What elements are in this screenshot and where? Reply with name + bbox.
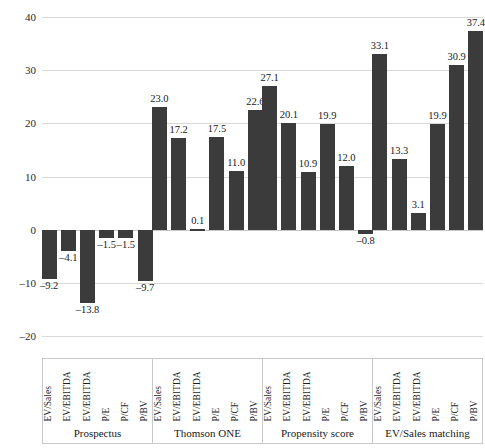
gridline--20: –20 [42, 336, 483, 337]
category-tick-label: P/BV [470, 400, 480, 421]
category-tick-labels: EV/SalesEV/EBITDAEV/EBITDAP/EP/CFP/BV [43, 359, 152, 421]
bar [61, 230, 76, 252]
bar [358, 230, 373, 234]
category-group: EV/SalesEV/EBITDAEV/EBITDAP/EP/CFP/BVPro… [263, 359, 373, 443]
category-tick-label: P/BV [140, 400, 150, 421]
category-tick-label: EV/EBITDA [413, 371, 423, 421]
category-tick-label: P/E [322, 407, 332, 421]
category-tick-label: P/CF [341, 401, 351, 421]
category-tick-label: P/BV [360, 400, 370, 421]
category-tick-label: P/CF [451, 401, 461, 421]
bar-value-label: 30.9 [447, 52, 465, 63]
bar-value-label: 19.9 [428, 111, 446, 122]
bar [209, 137, 224, 230]
category-tick-label: P/CF [231, 401, 241, 421]
bar [430, 124, 445, 230]
bar-value-label: 20.1 [280, 110, 298, 121]
bar [171, 138, 186, 229]
category-tick-label: EV/EBITDA [174, 371, 184, 421]
bar-value-label: 27.1 [260, 73, 278, 84]
bar-value-label: –1.5 [98, 240, 116, 251]
gridline--10: –10 [42, 283, 483, 284]
category-group: EV/SalesEV/EBITDAEV/EBITDAP/EP/CFP/BVPro… [43, 359, 153, 443]
bar [339, 166, 354, 230]
category-group-label: Prospectus [43, 428, 152, 439]
bar [152, 107, 167, 229]
bar [42, 230, 57, 279]
bar [229, 171, 244, 229]
category-tick-label: EV/Sales [264, 386, 274, 421]
bar [99, 230, 114, 238]
category-tick-label: EV/EBITDA [83, 371, 93, 421]
bar-value-label: 12.0 [337, 153, 355, 164]
y-axis-tick-label: –20 [20, 331, 37, 342]
category-tick-label: EV/Sales [44, 386, 54, 421]
bar [190, 229, 205, 231]
category-tick-labels: EV/SalesEV/EBITDAEV/EBITDAP/EP/CFP/BV [153, 359, 262, 421]
bar [138, 230, 153, 282]
category-tick-label: EV/EBITDA [284, 371, 294, 421]
category-tick-label: EV/EBITDA [193, 371, 203, 421]
bar-value-label: 17.2 [169, 125, 187, 136]
bar [411, 213, 426, 229]
category-group-label: Propensity score [263, 428, 372, 439]
category-axis: EV/SalesEV/EBITDAEV/EBITDAP/EP/CFP/BVPro… [42, 358, 483, 444]
category-tick-label: P/E [102, 407, 112, 421]
bar-value-label: –0.8 [356, 236, 374, 247]
category-group: EV/SalesEV/EBITDAEV/EBITDAP/EP/CFP/BVTho… [153, 359, 263, 443]
bar [320, 124, 335, 230]
bar-value-label: 19.9 [318, 111, 336, 122]
category-tick-label: P/E [212, 407, 222, 421]
bar [392, 159, 407, 230]
bar [468, 31, 483, 230]
bar-value-label: –13.8 [76, 305, 100, 316]
bar [372, 54, 387, 230]
bar-value-label: 17.5 [208, 124, 226, 135]
bar-value-label: 0.1 [191, 216, 204, 227]
bar-value-label: 11.0 [227, 158, 245, 169]
bar-value-label: –4.1 [59, 253, 77, 264]
plot-area: 403020100–10–20–9.2–4.1–13.8–1.5–1.5–9.7… [42, 17, 483, 336]
y-axis-tick-label: 10 [25, 171, 36, 182]
bar [118, 230, 133, 238]
category-tick-label: P/CF [121, 401, 131, 421]
y-axis-tick-label: 0 [31, 224, 37, 235]
category-tick-label: P/BV [250, 400, 260, 421]
category-tick-label: EV/EBITDA [394, 371, 404, 421]
bar-value-label: 10.9 [299, 159, 317, 170]
category-group: EV/SalesEV/EBITDAEV/EBITDAP/EP/CFP/BVEV/… [373, 359, 482, 443]
category-tick-label: EV/Sales [154, 386, 164, 421]
bar-value-label: 3.1 [412, 200, 425, 211]
bar [449, 65, 464, 229]
bar-value-label: –1.5 [117, 240, 135, 251]
bar-value-label: 23.0 [150, 94, 168, 105]
bar [248, 110, 263, 230]
category-tick-label: EV/EBITDA [64, 371, 74, 421]
bar-value-label: –9.2 [40, 281, 58, 292]
category-tick-label: EV/EBITDA [303, 371, 313, 421]
category-tick-label: P/E [432, 407, 442, 421]
y-axis-tick-label: 30 [25, 65, 36, 76]
y-axis-tick-label: –10 [20, 277, 37, 288]
bar-value-label: 37.4 [467, 18, 485, 29]
gridline-40: 40 [42, 17, 483, 18]
category-group-label: Thomson ONE [153, 428, 262, 439]
bar-chart: 403020100–10–20–9.2–4.1–13.8–1.5–1.5–9.7… [0, 0, 485, 448]
bar [262, 86, 277, 230]
y-axis-tick-label: 20 [25, 118, 36, 129]
category-group-label: EV/Sales matching [373, 428, 482, 439]
bar [281, 123, 296, 230]
bar [301, 172, 316, 230]
y-axis-tick-label: 40 [25, 12, 36, 23]
bar [80, 230, 95, 303]
category-tick-labels: EV/SalesEV/EBITDAEV/EBITDAP/EP/CFP/BV [263, 359, 372, 421]
bar-value-label: 13.3 [390, 146, 408, 157]
category-tick-labels: EV/SalesEV/EBITDAEV/EBITDAP/EP/CFP/BV [373, 359, 482, 421]
category-tick-label: EV/Sales [374, 386, 384, 421]
bar-value-label: –9.7 [136, 283, 154, 294]
bar-value-label: 33.1 [371, 41, 389, 52]
